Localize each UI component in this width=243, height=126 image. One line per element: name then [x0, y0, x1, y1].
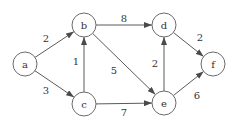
graph-diagram: abcdef 231857226 — [0, 0, 243, 126]
edge-weight-d-f: 2 — [197, 32, 203, 43]
node-b: b — [72, 13, 96, 37]
node-e: e — [152, 91, 176, 115]
node-a: a — [13, 52, 37, 76]
node-label: e — [161, 98, 167, 109]
node-label: c — [81, 99, 87, 110]
node-label: b — [81, 20, 87, 31]
edge-c-e — [96, 103, 152, 104]
node-f: f — [201, 52, 225, 76]
edge-b-e — [93, 33, 156, 94]
edge-weight-c-b: 1 — [73, 56, 79, 67]
edge-weight-a-c: 3 — [43, 85, 49, 96]
edge-weight-e-f: 6 — [194, 90, 200, 101]
edge-a-b — [35, 32, 74, 58]
edge-weight-e-d: 2 — [152, 58, 158, 69]
node-label: d — [161, 20, 168, 31]
edges-layer — [35, 25, 204, 104]
edge-a-c — [35, 71, 74, 98]
node-d: d — [152, 13, 176, 37]
nodes-layer: abcdef — [13, 13, 225, 116]
edge-weight-b-e: 5 — [111, 65, 117, 76]
edge-weight-a-b: 2 — [43, 33, 49, 44]
edge-weight-b-d: 8 — [121, 13, 127, 24]
node-c: c — [72, 92, 96, 116]
node-label: a — [22, 59, 28, 70]
edge-labels-layer: 231857226 — [43, 13, 203, 118]
edge-weight-c-e: 7 — [121, 107, 127, 118]
